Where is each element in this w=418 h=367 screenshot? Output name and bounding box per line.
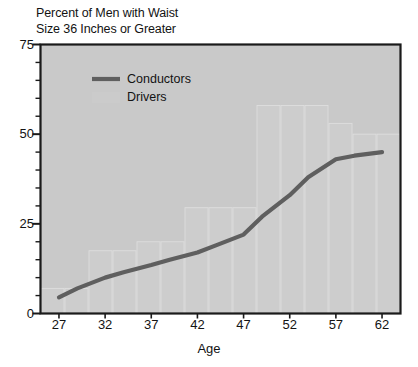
x-tick-label: 62	[362, 317, 402, 332]
x-axis-label: Age	[0, 341, 418, 356]
chart-plot-area	[0, 0, 418, 367]
chart-title-line-2: Size 36 Inches or Greater	[36, 22, 176, 36]
chart-title: Percent of Men with WaistSize 36 Inches …	[36, 6, 178, 37]
y-tick-label: 0	[0, 306, 34, 321]
x-tick-label: 42	[177, 317, 217, 332]
x-tick-label: 52	[270, 317, 310, 332]
legend-label-conductors: Conductors	[127, 72, 191, 86]
legend-label-drivers: Drivers	[127, 90, 167, 104]
chart-title-line-1: Percent of Men with Waist	[36, 6, 178, 20]
x-tick-label: 27	[39, 317, 79, 332]
x-tick-label: 47	[224, 317, 264, 332]
x-tick-label: 32	[85, 317, 125, 332]
x-tick-label: 37	[131, 317, 171, 332]
x-tick-label: 57	[316, 317, 356, 332]
y-tick-label: 75	[0, 37, 34, 52]
y-tick-label: 50	[0, 126, 34, 141]
chart-figure: Percent of Men with WaistSize 36 Inches …	[0, 0, 418, 367]
y-tick-label: 25	[0, 216, 34, 231]
